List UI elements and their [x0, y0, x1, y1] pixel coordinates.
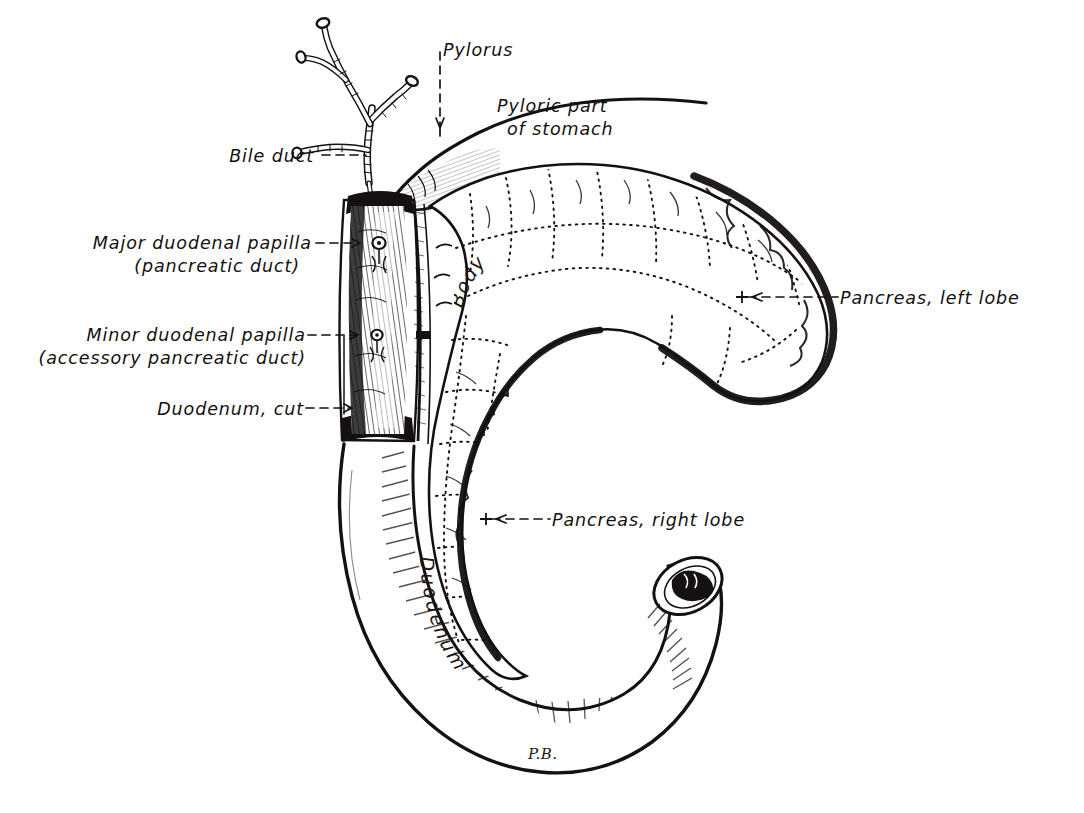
- anatomical-figure: Pylorus Pyloric part of stomach Bile duc…: [0, 0, 1084, 813]
- duodenum-text-path: Duodenum: [392, 548, 652, 738]
- leader-minor-papilla: [308, 331, 358, 339]
- label-duodenum: Duodenum: [392, 548, 652, 738]
- label-bile-duct: Bile duct: [0, 144, 314, 168]
- duodenum-cut-open: [339, 191, 430, 444]
- label-pancreas-right-lobe: Pancreas, right lobe: [552, 508, 745, 532]
- label-minor-duodenal-papilla: Minor duodenal papilla (accessory pancre…: [0, 324, 306, 370]
- body-text-path: Body: [454, 228, 534, 314]
- label-pylorus: Pylorus: [443, 38, 513, 62]
- svg-text:Duodenum: Duodenum: [416, 556, 472, 676]
- artist-signature: P.B.: [528, 745, 558, 763]
- bile-duct-tree: [292, 17, 420, 200]
- leader-pylorus: [436, 52, 444, 136]
- label-pyloric-part-of-stomach: Pyloric part of stomach: [497, 95, 614, 141]
- label-duodenum-cut: Duodenum, cut: [0, 397, 304, 421]
- label-body: Body: [454, 228, 534, 314]
- svg-text:Body: Body: [454, 251, 490, 310]
- label-pancreas-left-lobe: Pancreas, left lobe: [840, 286, 1020, 310]
- label-major-duodenal-papilla: Major duodenal papilla (pancreatic duct): [0, 232, 312, 278]
